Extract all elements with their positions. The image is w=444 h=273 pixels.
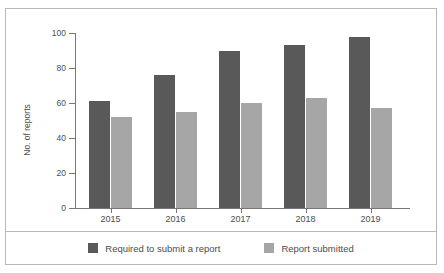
legend-swatch-icon [264, 243, 274, 253]
legend-label: Report submitted [281, 243, 353, 254]
y-tick-mark [69, 208, 75, 209]
legend-item[interactable]: Required to submit a report [88, 243, 220, 254]
chart-screenshot: 020406080100 No. of reports 201520162017… [0, 0, 444, 273]
legend-item[interactable]: Report submitted [264, 243, 353, 254]
bar [176, 112, 197, 208]
x-tick-mark [371, 208, 372, 213]
bar [284, 45, 305, 208]
chart-legend: Required to submit a reportReport submit… [6, 232, 436, 264]
x-tick-label: 2017 [221, 214, 261, 225]
bars-layer [0, 33, 444, 208]
bar [349, 37, 370, 209]
x-tick-label: 2019 [351, 214, 391, 225]
x-tick-mark [111, 208, 112, 213]
x-tick-mark [176, 208, 177, 213]
x-tick-mark [306, 208, 307, 213]
x-tick-label: 2015 [91, 214, 131, 225]
legend-swatch-icon [88, 243, 98, 253]
x-tick-mark [241, 208, 242, 213]
bar [306, 98, 327, 208]
plot-area: 020406080100 No. of reports 201520162017… [0, 0, 444, 231]
bar [219, 51, 240, 209]
bar [371, 108, 392, 208]
legend-label: Required to submit a report [105, 243, 220, 254]
bar [111, 117, 132, 208]
x-axis-line [75, 208, 410, 209]
bar [89, 101, 110, 208]
x-tick-label: 2016 [156, 214, 196, 225]
x-tick-label: 2018 [286, 214, 326, 225]
bar [154, 75, 175, 208]
bar [241, 103, 262, 208]
